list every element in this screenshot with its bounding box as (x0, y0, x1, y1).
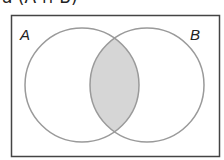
set-label-a: A (19, 26, 30, 43)
set-label-b: B (190, 26, 200, 43)
venn-diagram: A B (0, 0, 224, 160)
